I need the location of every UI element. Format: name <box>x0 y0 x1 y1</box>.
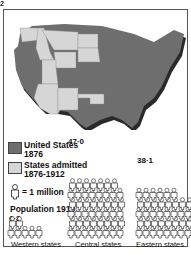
group-label-eastern: Eastern states <box>136 240 184 249</box>
person-western-states <box>36 226 42 238</box>
person-western-states <box>22 226 28 238</box>
population-pictogram <box>0 0 191 255</box>
group-label-central: Central states <box>75 240 121 249</box>
group-label-western: Western states <box>11 240 61 249</box>
person-western-states <box>29 226 35 238</box>
